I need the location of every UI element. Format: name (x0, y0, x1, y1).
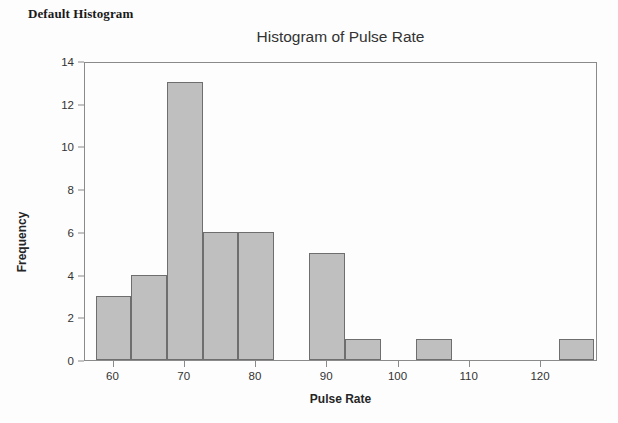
histogram-page: Default Histogram Histogram of Pulse Rat… (0, 0, 618, 423)
x-axis: Pulse Rate 60708090100110120 (84, 361, 597, 423)
x-tick-label: 90 (320, 370, 333, 382)
y-tick-label: 2 (68, 312, 74, 324)
y-axis-title: Frequency (15, 212, 29, 273)
x-tick-label: 70 (177, 370, 190, 382)
y-tick-label: 8 (68, 184, 74, 196)
chart-title: Histogram of Pulse Rate (84, 28, 597, 46)
histogram-chart: Histogram of Pulse Rate Frequency 024681… (0, 0, 618, 423)
histogram-bar (559, 339, 595, 360)
x-tick-label: 100 (388, 370, 407, 382)
histogram-bar (96, 296, 132, 360)
y-tick-label: 14 (61, 56, 74, 68)
x-tick-label: 120 (530, 370, 549, 382)
x-tick-mark (255, 361, 256, 367)
plot-frame (84, 62, 597, 361)
x-tick-mark (113, 361, 114, 367)
histogram-bar (131, 275, 167, 360)
plot-area (85, 63, 596, 360)
x-tick-mark (398, 361, 399, 367)
x-axis-title: Pulse Rate (84, 392, 597, 406)
histogram-bar (345, 339, 381, 360)
histogram-bar (167, 82, 203, 360)
y-tick-label: 10 (61, 141, 74, 153)
y-tick-label: 12 (61, 99, 74, 111)
y-tick-label: 4 (68, 270, 74, 282)
histogram-bar (238, 232, 274, 360)
x-tick-mark (469, 361, 470, 367)
x-tick-mark (184, 361, 185, 367)
x-tick-label: 110 (460, 370, 478, 382)
x-tick-mark (540, 361, 541, 367)
y-tick-label: 6 (68, 227, 74, 239)
histogram-bar (416, 339, 452, 360)
histogram-bar (309, 253, 345, 360)
x-tick-mark (326, 361, 327, 367)
x-tick-label: 80 (249, 370, 262, 382)
histogram-bar (203, 232, 239, 360)
x-tick-label: 60 (106, 370, 119, 382)
y-tick-label: 0 (68, 355, 74, 367)
y-axis: Frequency 02468101214 (0, 62, 84, 362)
